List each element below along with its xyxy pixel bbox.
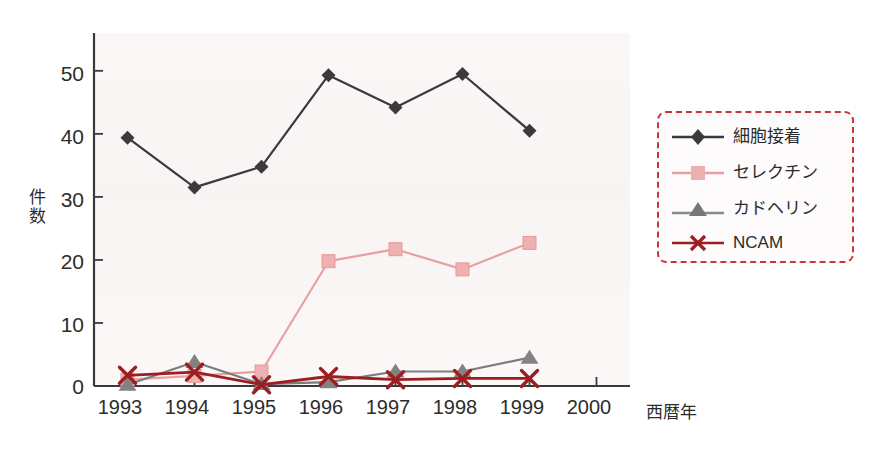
legend-marker-square-icon — [669, 158, 727, 188]
legend-label-1: セレクチン — [733, 161, 818, 185]
legend-label-2: カドヘリン — [733, 197, 818, 221]
x-tick-label-1996: 1996 — [283, 396, 359, 419]
x-tick-label-1997: 1997 — [350, 396, 426, 419]
plot-svg — [0, 0, 660, 454]
x-axis-title: 西暦年 — [646, 398, 697, 423]
legend-marker-cross-icon — [669, 228, 727, 258]
series-1 — [121, 236, 536, 386]
legend-label-0: 細胞接着 — [733, 125, 801, 149]
legend-item-1[interactable]: セレクチン — [669, 158, 849, 188]
y-tick-label-50: 50 — [38, 62, 84, 86]
legend-marker-triangle-icon — [669, 194, 727, 224]
chart-page: 件数 50 40 30 20 10 0 1993 1994 1995 1996 … — [0, 0, 878, 454]
chart-canvas — [0, 0, 660, 454]
legend-item-2[interactable]: カドヘリン — [669, 194, 849, 224]
x-tick-label-1993: 1993 — [82, 396, 158, 419]
legend-label-3: NCAM — [733, 231, 783, 255]
series-0 — [121, 67, 537, 194]
x-tick-label-1998: 1998 — [417, 396, 493, 419]
legend-marker-diamond-icon — [669, 122, 727, 152]
y-tick-label-20: 20 — [38, 250, 84, 274]
x-tick-label-2000: 2000 — [551, 396, 627, 419]
x-tick-label-1995: 1995 — [216, 396, 292, 419]
y-tick-label-40: 40 — [38, 125, 84, 149]
x-tick-label-1994: 1994 — [149, 396, 225, 419]
x-tick-label-1999: 1999 — [484, 396, 560, 419]
chart-legend: 細胞接着 セレクチン カドヘリン NCAM — [657, 111, 854, 263]
y-tick-label-0: 0 — [38, 375, 84, 399]
y-tick-label-30: 30 — [38, 188, 84, 212]
legend-item-3[interactable]: NCAM — [669, 228, 849, 258]
series-2 — [119, 350, 539, 391]
y-tick-label-10: 10 — [38, 313, 84, 337]
legend-item-0[interactable]: 細胞接着 — [669, 122, 849, 152]
